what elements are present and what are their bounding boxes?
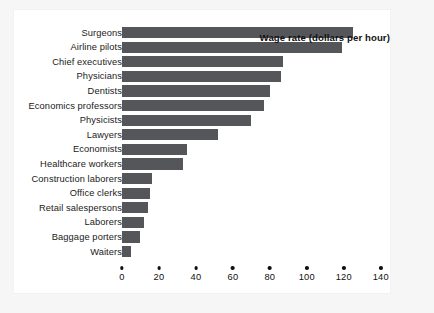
bar-row: Office clerks — [14, 187, 390, 202]
bar-row: Baggage porters — [14, 230, 390, 245]
bar — [122, 158, 183, 169]
bar — [122, 42, 342, 53]
x-axis-tick-label: 60 — [228, 273, 239, 282]
x-axis-title: Wage rate (dollars per hour) — [260, 32, 390, 43]
x-axis-tick-marker — [120, 266, 124, 270]
bar-track — [122, 56, 390, 67]
bar-row: Waiters — [14, 245, 390, 260]
plot-panel: SurgeonsAirline pilotsChief executivesPh… — [14, 10, 390, 293]
x-axis-tick-label: 0 — [119, 273, 124, 282]
bar — [122, 85, 270, 96]
bar-track — [122, 217, 390, 228]
bar-category-label: Airline pilots — [0, 43, 122, 52]
bar-category-label: Waiters — [0, 248, 122, 257]
bar — [122, 173, 152, 184]
bar-category-label: Physicians — [0, 72, 122, 81]
bar — [122, 188, 150, 199]
x-axis-tick-label: 120 — [336, 273, 352, 282]
bar-category-label: Construction laborers — [0, 175, 122, 184]
bar-track — [122, 246, 390, 257]
bar-track — [122, 173, 390, 184]
bar-row: Laborers — [14, 216, 390, 231]
bar — [122, 246, 131, 257]
bar-track — [122, 144, 390, 155]
bar-category-label: Office clerks — [0, 189, 122, 198]
bar-track — [122, 115, 390, 126]
bar-row: Economics professors — [14, 99, 390, 114]
x-axis-tick-label: 100 — [299, 273, 315, 282]
x-axis-tick-marker — [194, 266, 198, 270]
bar — [122, 144, 187, 155]
bar-row: Retail salespersons — [14, 201, 390, 216]
x-axis-tick-label: 20 — [154, 273, 165, 282]
bar-rows: SurgeonsAirline pilotsChief executivesPh… — [14, 26, 390, 264]
bar — [122, 231, 140, 242]
bar-category-label: Baggage porters — [0, 233, 122, 242]
bar-track — [122, 100, 390, 111]
bar — [122, 217, 144, 228]
bar-track — [122, 188, 390, 199]
bar-track — [122, 231, 390, 242]
bar-category-label: Physicists — [0, 116, 122, 125]
chart-figure: SurgeonsAirline pilotsChief executivesPh… — [0, 0, 434, 313]
x-axis-tick-marker — [379, 266, 383, 270]
x-axis-tick: 20 — [154, 266, 165, 282]
x-axis-tick: 100 — [299, 266, 315, 282]
x-axis-tick-marker — [305, 266, 309, 270]
x-axis-tick: 40 — [191, 266, 202, 282]
bar-row: Chief executives — [14, 55, 390, 70]
bar-category-label: Dentists — [0, 87, 122, 96]
bar-category-label: Chief executives — [0, 58, 122, 67]
bar — [122, 56, 283, 67]
x-axis-tick-marker — [157, 266, 161, 270]
bar-category-label: Lawyers — [0, 131, 122, 140]
bar-row: Dentists — [14, 84, 390, 99]
x-axis-tick-label: 140 — [373, 273, 389, 282]
x-axis-tick: 60 — [228, 266, 239, 282]
x-axis-tick-marker — [231, 266, 235, 270]
bar — [122, 115, 251, 126]
x-axis-tick-label: 80 — [264, 273, 275, 282]
bar-row: Lawyers — [14, 128, 390, 143]
x-axis-tick: 0 — [119, 266, 124, 282]
bar-category-label: Healthcare workers — [0, 160, 122, 169]
bar-track — [122, 202, 390, 213]
x-axis-tick-marker — [342, 266, 346, 270]
x-axis-tick: 80 — [264, 266, 275, 282]
bar — [122, 100, 264, 111]
bar — [122, 202, 148, 213]
bar-category-label: Economics professors — [0, 102, 122, 111]
x-axis: 020406080100120140 — [122, 266, 390, 296]
x-axis-tick: 140 — [373, 266, 389, 282]
bar-track — [122, 71, 390, 82]
bar-row: Physicians — [14, 70, 390, 85]
bar — [122, 71, 281, 82]
bar-track — [122, 42, 390, 53]
bar-track — [122, 85, 390, 96]
bar-row: Economists — [14, 143, 390, 158]
bar-category-label: Surgeons — [0, 29, 122, 38]
bar-track — [122, 158, 390, 169]
bar-row: Construction laborers — [14, 172, 390, 187]
bar-row: Physicists — [14, 114, 390, 129]
x-axis-tick-marker — [268, 266, 272, 270]
bar-track — [122, 129, 390, 140]
x-axis-tick-label: 40 — [191, 273, 202, 282]
bar-category-label: Economists — [0, 145, 122, 154]
bar-category-label: Retail salespersons — [0, 204, 122, 213]
x-axis-tick: 120 — [336, 266, 352, 282]
bar-category-label: Laborers — [0, 218, 122, 227]
bar-row: Healthcare workers — [14, 157, 390, 172]
bar — [122, 129, 218, 140]
